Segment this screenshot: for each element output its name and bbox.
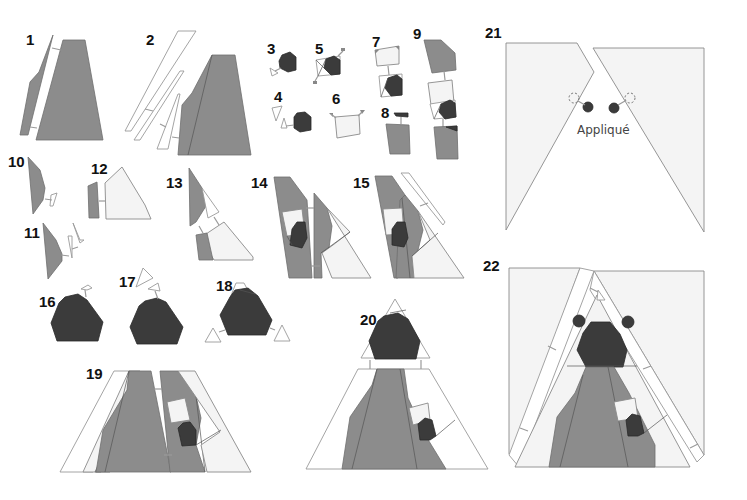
small-triangle: [81, 285, 92, 290]
step-22: 22: [483, 257, 704, 467]
step-5: 5: [313, 40, 345, 84]
step-7: 7: [372, 33, 402, 97]
step-label-4: 4: [274, 88, 283, 105]
step-label-11: 11: [24, 224, 40, 241]
ear-applique-right: [609, 103, 619, 113]
gray-curve-piece: [28, 157, 45, 214]
step-label-5: 5: [315, 40, 323, 57]
step-21: 21 Appliqué: [485, 24, 704, 232]
step-19: 19: [60, 365, 251, 472]
step-15: 15: [353, 173, 464, 278]
step-13: 13: [166, 168, 253, 260]
dark-hexagon: [279, 52, 296, 72]
gray-block: [386, 124, 410, 154]
step-label-13: 13: [166, 174, 183, 191]
triangle-top: [136, 268, 153, 287]
triangle-mid: [148, 283, 160, 291]
dark-hexagon: [392, 222, 408, 247]
gray-strip: [88, 182, 99, 218]
step-label-16: 16: [39, 293, 56, 310]
step-9: 9: [413, 25, 458, 159]
dark-hexagon: [294, 112, 311, 132]
gray-bottom-block: [434, 126, 458, 159]
step-4: 4: [272, 88, 311, 132]
step-label-3: 3: [267, 40, 275, 57]
step-label-19: 19: [86, 365, 103, 382]
gray-curve-piece: [43, 223, 62, 279]
step-17: 17: [119, 268, 183, 344]
body-assembled: [178, 55, 251, 155]
triangle-right: [274, 325, 290, 341]
step-16: 16: [39, 285, 103, 341]
step-label-15: 15: [353, 174, 370, 191]
step-label-17: 17: [119, 273, 136, 290]
step-8: 8: [381, 104, 410, 154]
triangle-a: [272, 106, 282, 121]
dark-hexagon: [220, 288, 272, 335]
step-12: 12: [88, 160, 151, 219]
step-2: 2: [125, 31, 251, 155]
step-18: 18: [205, 277, 290, 342]
step-label-22: 22: [483, 257, 500, 274]
step-label-9: 9: [413, 25, 421, 42]
quilt-assembly-diagram: 1 2 3 4 5: [0, 0, 747, 500]
right-background-panel: [593, 48, 704, 232]
step-label-1: 1: [26, 31, 34, 48]
dark-hexagon: [51, 294, 103, 341]
step-1: 1: [20, 31, 103, 140]
triangle-a: [68, 236, 72, 258]
ear-left: [573, 315, 585, 327]
step-label-20: 20: [360, 311, 377, 328]
step-label-7: 7: [372, 33, 380, 50]
dark-hexagon: [130, 298, 183, 344]
step-20: 20: [306, 299, 488, 469]
step-label-18: 18: [216, 277, 233, 294]
step-label-21: 21: [485, 24, 502, 41]
white-triangle: [202, 188, 219, 218]
step-label-14: 14: [251, 174, 268, 191]
light-square: [335, 115, 360, 138]
step-label-10: 10: [8, 153, 25, 170]
light-wedge: [105, 167, 151, 219]
light-square: [375, 46, 399, 66]
ear-applique-left: [583, 102, 593, 112]
ear-right: [622, 316, 634, 328]
step-label-2: 2: [146, 31, 154, 48]
step-label-12: 12: [91, 160, 108, 177]
step-6: 6: [329, 90, 365, 138]
step-label-8: 8: [381, 104, 389, 121]
triangle-left: [205, 328, 221, 342]
step-label-6: 6: [332, 90, 340, 107]
step-11: 11: [24, 223, 84, 279]
dark-wedge: [394, 113, 408, 117]
applique-label: Appliqué: [577, 123, 630, 137]
step-3: 3: [267, 40, 296, 76]
triangle-b: [73, 223, 84, 243]
gray-top-block: [424, 40, 456, 73]
step-10: 10: [8, 153, 57, 214]
corner-triangle: [270, 68, 278, 76]
